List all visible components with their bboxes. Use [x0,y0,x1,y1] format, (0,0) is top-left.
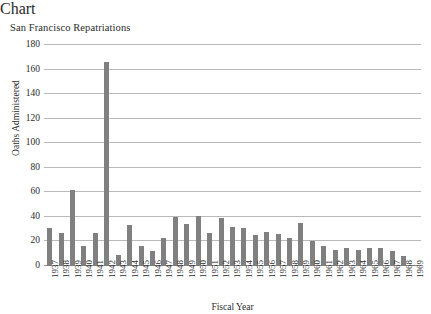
bar-slot-1944 [124,45,135,266]
bar-slot-1952 [215,45,226,266]
bar-slot-1938 [55,45,66,266]
plot-area: 180160140120100806040200 [44,44,421,266]
bar-slot-1945 [135,45,146,266]
x-tick-1969: 1969 [415,260,425,278]
x-tick-slot-1957: 1957 [272,268,283,302]
x-tick-slot-1941: 1941 [90,268,101,302]
y-tick-100: 100 [26,137,40,147]
x-tick-slot-1954: 1954 [238,268,249,302]
bar-slot-1966 [375,45,386,266]
bar-1952[interactable] [219,218,224,266]
x-tick-slot-1945: 1945 [135,268,146,302]
x-tick-slot-1968: 1968 [398,268,409,302]
x-tick-slot-1952: 1952 [215,268,226,302]
x-tick-slot-1964: 1964 [352,268,363,302]
bar-slot-1948 [170,45,181,266]
bar-slot-1951 [204,45,215,266]
bar-slot-1943 [113,45,124,266]
x-tick-slot-1962: 1962 [330,268,341,302]
bar-slot-1968 [398,45,409,266]
bar-slot-1960 [307,45,318,266]
x-tick-slot-1960: 1960 [307,268,318,302]
bar-slot-1955 [250,45,261,266]
y-tick-120: 120 [26,113,40,123]
y-tick-180: 180 [26,39,40,49]
x-tick-slot-1955: 1955 [250,268,261,302]
y-axis-title: Oaths Administered [11,48,21,188]
x-tick-slot-1951: 1951 [204,268,215,302]
y-tick-20: 20 [31,235,41,245]
x-axis-tick-labels: 1937193819391940194119421943194419451946… [44,268,421,302]
bar-1942[interactable] [104,62,109,266]
bar-slot-1939 [67,45,78,266]
x-tick-slot-1950: 1950 [192,268,203,302]
bar-slot-1958 [284,45,295,266]
bar-slot-1959 [295,45,306,266]
bar-slot-1950 [192,45,203,266]
x-tick-slot-1958: 1958 [284,268,295,302]
bar-slot-1963 [341,45,352,266]
bar-slot-1969 [410,45,421,266]
x-tick-slot-1959: 1959 [295,268,306,302]
bar-chart: San Francisco Repatriations Oaths Admini… [0,18,431,314]
x-axis-title: Fiscal Year [44,302,421,312]
bar-slot-1956 [261,45,272,266]
x-tick-slot-1949: 1949 [181,268,192,302]
x-tick-slot-1946: 1946 [147,268,158,302]
y-tick-0: 0 [35,260,40,270]
y-tick-140: 140 [26,88,40,98]
x-tick-slot-1948: 1948 [170,268,181,302]
x-tick-slot-1956: 1956 [261,268,272,302]
bar-slot-1937 [44,45,55,266]
bar-slot-1964 [352,45,363,266]
chart-title: San Francisco Repatriations [10,22,131,33]
bar-slot-1942 [101,45,112,266]
bar-slot-1940 [78,45,89,266]
x-tick-slot-1937: 1937 [44,268,55,302]
bar-slot-1957 [272,45,283,266]
x-tick-slot-1969: 1969 [410,268,421,302]
bar-1950[interactable] [196,216,201,266]
x-tick-slot-1965: 1965 [364,268,375,302]
y-tick-160: 160 [26,64,40,74]
y-tick-40: 40 [31,211,41,221]
x-tick-slot-1940: 1940 [78,268,89,302]
x-tick-slot-1953: 1953 [227,268,238,302]
bar-slot-1954 [238,45,249,266]
bar-slot-1953 [227,45,238,266]
bar-slot-1967 [387,45,398,266]
x-tick-slot-1938: 1938 [55,268,66,302]
x-tick-slot-1967: 1967 [387,268,398,302]
bar-slot-1947 [158,45,169,266]
x-tick-slot-1943: 1943 [113,268,124,302]
y-tick-60: 60 [31,186,41,196]
x-tick-slot-1939: 1939 [67,268,78,302]
bar-1948[interactable] [173,217,178,266]
x-tick-slot-1961: 1961 [318,268,329,302]
y-tick-80: 80 [31,162,41,172]
x-tick-slot-1944: 1944 [124,268,135,302]
x-tick-slot-1963: 1963 [341,268,352,302]
bar-1939[interactable] [70,190,75,266]
x-tick-slot-1947: 1947 [158,268,169,302]
bar-slot-1965 [364,45,375,266]
x-tick-slot-1942: 1942 [101,268,112,302]
bar-slot-1941 [90,45,101,266]
bar-slot-1962 [330,45,341,266]
bar-slot-1946 [147,45,158,266]
bar-series [44,45,421,266]
x-tick-slot-1966: 1966 [375,268,386,302]
bar-slot-1961 [318,45,329,266]
bar-slot-1949 [181,45,192,266]
